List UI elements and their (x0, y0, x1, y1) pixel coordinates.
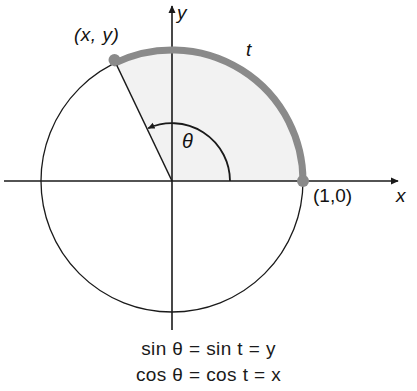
x-axis-label: x (396, 186, 406, 205)
equation-sine: sin θ = sin t = y (0, 336, 417, 362)
arc-length-label: t (246, 40, 251, 59)
unit-circle-figure: (x, y) y x t θ (1,0) sin θ = sin t = y c… (0, 0, 417, 391)
unit-circle-diagram (0, 0, 417, 391)
initial-point-dot (297, 175, 309, 187)
terminal-point-label: (x, y) (74, 25, 119, 44)
equations-block: sin θ = sin t = y cos θ = cos t = x (0, 336, 417, 388)
terminal-point-dot (109, 54, 121, 66)
shaded-sector (115, 50, 303, 181)
equation-cosine: cos θ = cos t = x (0, 362, 417, 388)
initial-point-label: (1,0) (313, 186, 352, 205)
y-axis-label: y (177, 3, 187, 22)
theta-angle-label: θ (182, 131, 193, 151)
